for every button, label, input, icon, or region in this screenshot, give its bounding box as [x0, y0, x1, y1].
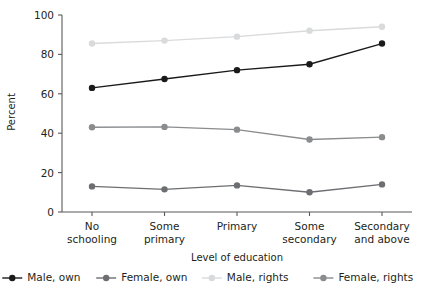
- legend-label: Female, own: [121, 271, 187, 283]
- series-female-own: [89, 181, 385, 195]
- data-point-marker: [161, 186, 167, 192]
- legend-item[interactable]: Male, own: [2, 271, 80, 283]
- data-point-marker: [306, 136, 312, 142]
- x-axis-category-labels: NoschoolingSomeprimaryPrimarySomeseconda…: [67, 220, 410, 245]
- x-category-label-line: Secondary: [354, 220, 410, 232]
- x-axis-ticks: [92, 212, 382, 216]
- data-point-marker: [89, 124, 95, 130]
- data-point-marker: [379, 181, 385, 187]
- x-category-label-line: secondary: [282, 233, 336, 245]
- data-point-marker: [234, 33, 240, 39]
- y-tick-label: 0: [47, 206, 54, 218]
- series-line: [92, 44, 382, 88]
- data-point-marker: [89, 85, 95, 91]
- x-axis-title: Level of education: [191, 252, 283, 263]
- legend-label: Male, rights: [227, 271, 289, 283]
- x-category-label: Noschooling: [67, 220, 117, 245]
- data-series-layer: [89, 24, 385, 196]
- x-category-label-line: primary: [144, 233, 185, 245]
- series-male-rights: [89, 24, 385, 47]
- x-category-label-line: Primary: [217, 220, 258, 232]
- data-point-marker: [234, 67, 240, 73]
- legend-marker-icon: [320, 275, 326, 281]
- data-point-marker: [306, 189, 312, 195]
- data-point-marker: [89, 40, 95, 46]
- legend-item[interactable]: Female, own: [96, 271, 187, 283]
- y-axis-tick-labels: 020406080100: [34, 9, 54, 218]
- data-point-marker: [161, 76, 167, 82]
- line-chart: Percent 020406080100 NoschoolingSomeprim…: [0, 0, 423, 291]
- data-point-marker: [379, 24, 385, 30]
- legend-label: Male, own: [27, 271, 80, 283]
- data-point-marker: [379, 40, 385, 46]
- chart-legend: Male, ownFemale, ownMale, rightsFemale, …: [2, 271, 413, 283]
- legend-item[interactable]: Female, rights: [313, 271, 413, 283]
- x-category-label-line: and above: [354, 233, 409, 245]
- y-axis-ticks: [58, 15, 62, 212]
- data-point-marker: [161, 37, 167, 43]
- series-female-rights: [89, 124, 385, 143]
- legend-marker-icon: [9, 275, 15, 281]
- y-tick-label: 40: [41, 127, 54, 139]
- series-male-own: [89, 40, 385, 91]
- data-point-marker: [306, 61, 312, 67]
- y-tick-label: 80: [41, 48, 54, 60]
- y-axis-title: Percent: [6, 93, 17, 131]
- chart-canvas: Percent 020406080100 NoschoolingSomeprim…: [0, 0, 423, 291]
- data-point-marker: [306, 28, 312, 34]
- data-point-marker: [89, 183, 95, 189]
- x-category-label: Primary: [217, 220, 258, 232]
- x-category-label-line: Some: [150, 220, 180, 232]
- data-point-marker: [234, 126, 240, 132]
- legend-marker-icon: [103, 275, 109, 281]
- data-point-marker: [161, 124, 167, 130]
- x-category-label: Someprimary: [144, 220, 185, 245]
- y-tick-label: 100: [34, 9, 54, 21]
- legend-label: Female, rights: [338, 271, 413, 283]
- y-tick-label: 20: [41, 167, 54, 179]
- data-point-marker: [379, 134, 385, 140]
- x-category-label-line: No: [85, 220, 99, 232]
- x-category-label-line: schooling: [67, 233, 117, 245]
- x-category-label: Secondaryand above: [354, 220, 410, 245]
- legend-item[interactable]: Male, rights: [202, 271, 289, 283]
- x-category-label-line: Some: [295, 220, 325, 232]
- y-tick-label: 60: [41, 88, 54, 100]
- legend-marker-icon: [209, 275, 215, 281]
- data-point-marker: [234, 182, 240, 188]
- x-category-label: Somesecondary: [282, 220, 336, 245]
